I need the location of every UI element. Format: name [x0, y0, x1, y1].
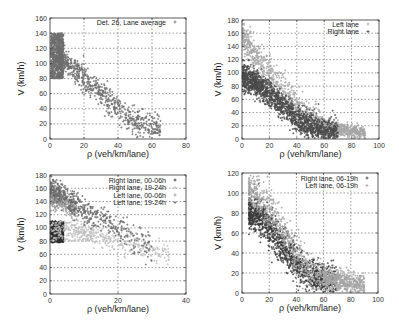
data-point [113, 219, 115, 221]
y-tick-label: 100 [227, 69, 239, 76]
data-point [112, 230, 114, 232]
data-point [103, 104, 105, 106]
data-point [278, 218, 280, 220]
data-point [275, 208, 277, 210]
data-point [97, 103, 99, 105]
data-point [288, 82, 290, 84]
data-point [250, 225, 252, 227]
data-point [244, 56, 246, 58]
data-point [340, 287, 342, 289]
data-point [122, 239, 124, 241]
data-point [275, 203, 277, 205]
data-point [105, 101, 107, 103]
data-point [72, 232, 74, 234]
data-point [306, 100, 308, 102]
data-point [289, 220, 291, 222]
panel-bottom-right: 020406080100020406080100120ρ (veh/km/lan… [213, 170, 384, 314]
data-point [357, 136, 359, 138]
data-point [80, 221, 82, 223]
data-point [90, 92, 92, 94]
x-axis-label: ρ (veh/km/lane) [87, 304, 149, 314]
data-point [149, 114, 151, 116]
data-point [74, 238, 76, 240]
data-point [293, 96, 295, 98]
data-point [106, 245, 108, 247]
data-point [315, 101, 317, 103]
data-point [250, 55, 252, 57]
data-point [132, 110, 134, 112]
data-point [356, 122, 358, 124]
y-tick-label: 0 [43, 291, 47, 298]
data-point [282, 226, 284, 228]
data-point [81, 226, 83, 228]
data-point [332, 265, 334, 267]
data-point [259, 226, 261, 228]
data-point [316, 259, 318, 261]
data-point [272, 246, 274, 248]
data-point [58, 207, 60, 209]
data-point [99, 242, 101, 244]
data-point [82, 91, 84, 93]
data-point [287, 85, 289, 87]
data-point [82, 235, 84, 237]
data-point [87, 67, 89, 69]
data-point [267, 63, 269, 65]
data-point [331, 270, 333, 272]
data-point [253, 183, 255, 185]
legend: Right lane, 06-19hLeft lane, 06-19h [301, 175, 369, 190]
data-point [88, 226, 90, 228]
y-tick-label: 100 [35, 60, 47, 67]
data-point [54, 211, 56, 213]
x-tick-label: 40 [293, 142, 301, 149]
data-point [80, 89, 82, 91]
data-point [88, 91, 90, 93]
x-tick-label: 80 [348, 142, 356, 149]
data-point [334, 114, 336, 116]
data-point [101, 228, 103, 230]
y-tick-label: 0 [43, 136, 47, 143]
data-point [130, 119, 132, 121]
data-point [105, 110, 107, 112]
data-point [342, 272, 344, 274]
y-tick-label: 20 [231, 270, 239, 277]
data-point [108, 245, 110, 247]
legend-label: Right lane [327, 28, 359, 36]
legend-marker [367, 30, 370, 33]
panel-bottom-left: 02040020406080100120140160180ρ (veh/km/l… [16, 172, 190, 315]
data-point [258, 97, 260, 99]
panel-top-left: 020406080020406080100120140160ρ (veh/km/… [16, 15, 190, 160]
data-point [305, 290, 307, 292]
data-point [107, 94, 109, 96]
data-point [291, 229, 293, 231]
data-point [338, 289, 340, 291]
data-point [167, 263, 169, 265]
data-point [105, 222, 107, 224]
data-point [110, 220, 112, 222]
y-tick-label: 180 [35, 172, 47, 179]
data-point [128, 228, 130, 230]
data-point [300, 107, 302, 109]
data-point [67, 192, 69, 194]
data-point [101, 86, 103, 88]
data-point [320, 258, 322, 260]
y-tick-label: 180 [227, 17, 239, 24]
data-point [133, 127, 135, 129]
data-point [302, 91, 304, 93]
data-point [139, 135, 141, 137]
data-point [262, 202, 264, 204]
data-point [108, 229, 110, 231]
data-point [95, 237, 97, 239]
data-point [263, 71, 265, 73]
data-point [121, 229, 123, 231]
data-point [74, 81, 76, 83]
data-point [271, 189, 273, 191]
data-point [321, 116, 323, 118]
data-point [66, 235, 68, 237]
data-point [125, 112, 127, 114]
data-point [352, 274, 354, 276]
data-point [144, 254, 146, 256]
data-point [253, 67, 255, 69]
data-point [250, 228, 252, 230]
y-tick-label: 40 [231, 250, 239, 257]
data-point [294, 232, 296, 234]
